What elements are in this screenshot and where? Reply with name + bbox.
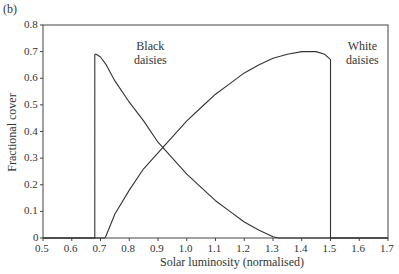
x-tick-label: 1.2 [236,242,250,254]
x-tick-label: 0.8 [121,242,135,254]
y-tick-label: 0.1 [24,204,38,216]
x-tick-label: 1.3 [265,242,279,254]
white-daisies-label: White daisies [346,39,379,67]
y-tick-label: 0.3 [24,151,38,163]
x-tick-label: 0.5 [35,242,49,254]
black-daisies-label: Black daisies [134,39,167,67]
x-tick-label: 0.6 [64,242,78,254]
y-tick-label: 0 [33,231,39,243]
y-tick-label: 0.2 [24,178,38,190]
y-tick-label: 0.4 [24,125,38,137]
x-tick-label: 1.4 [294,242,308,254]
black-daisies-line [43,54,388,238]
y-axis-title: Fractional cover [5,93,20,173]
y-tick-label: 0.8 [24,18,38,30]
x-tick-label: 1.1 [208,242,222,254]
y-tick-label: 0.7 [24,45,38,57]
x-tick-label: 0.7 [93,242,107,254]
y-tick-label: 0.6 [24,71,38,83]
line-chart [0,0,399,274]
y-tick-label: 0.5 [24,98,38,110]
x-tick-label: 1.0 [179,242,193,254]
x-tick-label: 1.5 [323,242,337,254]
x-tick-label: 1.6 [351,242,365,254]
x-axis-title: Solar luminosity (normalised) [160,255,304,270]
x-tick-label: 1.7 [380,242,394,254]
x-tick-label: 0.9 [150,242,164,254]
